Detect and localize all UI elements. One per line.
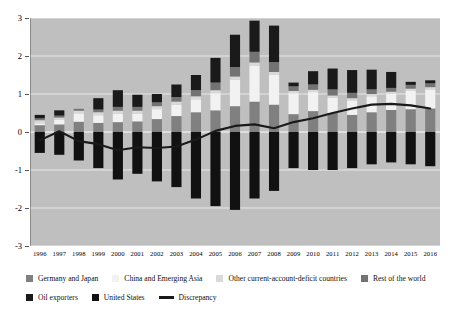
y-tick-label: -3 <box>2 242 22 251</box>
bar-segment <box>54 116 64 118</box>
bar-segment <box>132 121 142 132</box>
bar-segment <box>425 108 435 132</box>
bar-segment <box>386 72 396 88</box>
y-tick-mark <box>25 94 29 95</box>
legend-swatch-icon <box>26 294 33 301</box>
bar-segment <box>132 132 142 174</box>
bar-segment <box>386 110 396 132</box>
bar-segment <box>191 96 201 99</box>
bar-segment <box>328 69 338 90</box>
legend-item[interactable]: Rest of the world <box>361 275 426 283</box>
bar-segment <box>347 98 357 100</box>
bar-segment <box>74 109 84 111</box>
y-tick-label: 0 <box>2 128 22 137</box>
bar-segment <box>249 62 259 65</box>
bar-segment <box>308 92 318 111</box>
bar-segment <box>210 93 220 110</box>
legend-row: Oil exportersUnited StatesDiscrepancy <box>26 288 446 307</box>
legend-label: Discrepancy <box>179 294 217 302</box>
legend-item[interactable]: Oil exporters <box>26 294 78 302</box>
legend-swatch-icon <box>216 275 223 282</box>
bar-segment <box>132 111 142 114</box>
bar-segment <box>113 90 123 107</box>
bar-segment <box>288 132 298 168</box>
bar-segment <box>425 132 435 166</box>
bar-segment <box>367 112 377 132</box>
bar-segment <box>288 86 298 91</box>
bar-segment <box>152 119 162 132</box>
bar-segment <box>74 122 84 132</box>
plot-area <box>30 18 440 246</box>
y-tick-mark <box>25 132 29 133</box>
bar-segment <box>191 99 201 112</box>
bar-segment <box>230 35 240 67</box>
bar-segment <box>54 110 64 115</box>
bar-segment <box>328 113 338 132</box>
bar-segment <box>171 102 181 105</box>
bar-segment <box>113 114 123 122</box>
bar-segment <box>367 132 377 164</box>
bar-segment <box>288 93 298 114</box>
bar-segment <box>93 115 103 123</box>
bar-segment <box>54 120 64 125</box>
bar-segment <box>347 115 357 132</box>
bar-segment <box>249 132 259 199</box>
y-tick-label: 1 <box>2 90 22 99</box>
legend-item[interactable]: United States <box>92 294 145 302</box>
bar-segment <box>425 80 435 83</box>
bar-segment <box>347 70 357 93</box>
y-tick-mark <box>25 208 29 209</box>
bar-segment <box>54 132 64 155</box>
bar-segment <box>74 113 84 121</box>
bar-segment <box>152 132 162 181</box>
bar-segment <box>269 72 279 75</box>
bar-segment <box>191 90 201 96</box>
bar-segment <box>406 109 416 132</box>
bar-segment <box>35 123 45 125</box>
bar-segment <box>132 107 142 111</box>
bar-segment <box>367 94 377 96</box>
bar-segment <box>132 95 142 107</box>
bar-segment <box>210 58 220 83</box>
bar-segment <box>425 87 435 89</box>
y-tick-mark <box>25 246 29 247</box>
bar-segment <box>191 75 201 90</box>
bar-segment <box>347 132 357 168</box>
bar-segment <box>74 132 84 161</box>
y-tick-mark <box>25 170 29 171</box>
bar-segment <box>406 82 416 85</box>
bar-segment <box>74 111 84 114</box>
y-tick-mark <box>25 56 29 57</box>
chart-canvas <box>30 18 440 246</box>
legend-item[interactable]: Other current-account-deficit countries <box>216 275 347 283</box>
bar-segment <box>308 85 318 90</box>
legend-item[interactable]: China and Emerging Asia <box>112 275 202 283</box>
bar-segment <box>191 112 201 132</box>
bar-segment <box>210 110 220 132</box>
bar-segment <box>308 71 318 84</box>
legend-label: Germany and Japan <box>38 275 98 283</box>
x-tick-label: 2016 <box>417 251 443 258</box>
bar-segment <box>425 89 435 108</box>
bar-segment <box>406 89 416 91</box>
bar-segment <box>249 102 259 132</box>
bar-segment <box>386 88 396 92</box>
bar-segment <box>132 114 142 122</box>
bar-segment <box>171 116 181 132</box>
bar-segment <box>171 132 181 187</box>
legend-item[interactable]: Germany and Japan <box>26 275 98 283</box>
bar-segment <box>230 80 240 107</box>
bar-segment <box>328 132 338 170</box>
bar-segment <box>386 94 396 110</box>
bar-segment <box>113 122 123 132</box>
bar-segment <box>406 85 416 89</box>
legend-item[interactable]: Discrepancy <box>159 294 217 302</box>
bar-segment <box>269 75 279 105</box>
bar-segment <box>308 132 318 170</box>
bar-segment <box>328 89 338 95</box>
bar-segment <box>93 123 103 132</box>
bar-segment <box>54 118 64 120</box>
legend-row: Germany and JapanChina and Emerging Asia… <box>26 269 446 288</box>
bar-segment <box>210 83 220 91</box>
legend-label: Oil exporters <box>38 294 78 302</box>
